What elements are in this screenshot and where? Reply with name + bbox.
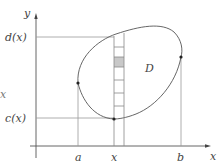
point-b xyxy=(179,55,182,58)
stray-x-label: x xyxy=(0,88,7,101)
c-of-x-label: c(x) xyxy=(5,112,26,125)
point-c-of-x xyxy=(112,117,115,120)
region-label: D xyxy=(144,62,154,75)
type-one-region-diagram: y x d(x) c(x) D a x b x xyxy=(0,0,218,168)
point-a xyxy=(76,81,79,84)
a-tick-label: a xyxy=(75,151,82,164)
x-axis-label: x xyxy=(210,150,217,163)
x-axis-arrow-icon xyxy=(205,144,211,147)
y-axis-label: y xyxy=(23,7,31,20)
vertical-strip xyxy=(114,33,124,146)
y-axis-arrow-icon xyxy=(34,13,37,19)
x-tick-label: x xyxy=(111,151,118,164)
d-of-x-label: d(x) xyxy=(5,31,27,44)
b-tick-label: b xyxy=(177,151,184,164)
highlighted-cell xyxy=(114,57,124,67)
region-boundary xyxy=(78,26,182,119)
